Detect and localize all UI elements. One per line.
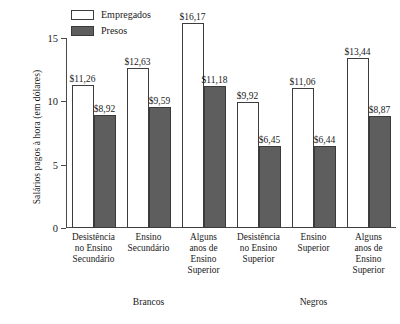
category-label-line: Superior <box>335 265 400 276</box>
bar-value-label: $12,63 <box>124 57 150 67</box>
group-label-negros: Negros <box>264 296 364 307</box>
y-tick-label: 0 <box>53 223 58 234</box>
bar-value-label: $13,44 <box>344 47 370 57</box>
bar-presos-2: $11,18 <box>204 86 226 228</box>
y-axis-title: Salários pagos à hora (em dólares) <box>32 42 42 232</box>
category-label-line: anos de <box>335 243 400 254</box>
bar-empregados-2: $16,17 <box>182 23 204 228</box>
bar-empregados-5: $13,44 <box>347 58 369 228</box>
bar-empregados-3: $9,92 <box>237 102 259 228</box>
bar-presos-4: $6,44 <box>314 146 336 228</box>
y-tick-label: 5 <box>53 159 58 170</box>
bar-value-label: $6,45 <box>259 135 280 145</box>
bar-value-label: $11,18 <box>202 75 228 85</box>
y-tick-label: 10 <box>48 96 59 107</box>
bar-value-label: $16,17 <box>179 12 205 22</box>
bar-presos-3: $6,45 <box>259 146 281 228</box>
bar-presos-1: $9,59 <box>149 107 171 228</box>
legend-label-empregados: Empregados <box>101 9 151 20</box>
category-label-5: Algunsanos deEnsinoSuperior <box>335 232 400 276</box>
bar-presos-0: $8,92 <box>94 115 116 228</box>
legend-item-empregados: Empregados <box>71 8 151 21</box>
category-label-line: Superior <box>170 265 237 276</box>
bar-empregados-4: $11,06 <box>292 88 314 228</box>
bar-series-container: $11,26$12,63$16,17$9,92$11,06$13,44$8,92… <box>66 38 396 228</box>
legend-swatch-presos <box>71 26 94 36</box>
y-tick-0: 0 <box>66 228 67 229</box>
bar-value-label: $11,26 <box>70 74 96 84</box>
chart-root: Salários pagos à hora (em dólares) Empre… <box>0 0 400 324</box>
bar-value-label: $8,87 <box>369 105 390 115</box>
x-axis-category-labels: Desistênciano EnsinoSecundárioEnsinoSecu… <box>66 232 396 290</box>
legend-item-presos: Presos <box>71 24 151 37</box>
bar-value-label: $8,92 <box>94 104 115 114</box>
group-label-brancos: Brancos <box>99 296 199 307</box>
bar-empregados-0: $11,26 <box>72 85 94 228</box>
bar-value-label: $6,44 <box>314 135 335 145</box>
y-tick-mark <box>61 228 66 229</box>
category-label-line: Alguns <box>335 232 400 243</box>
category-label-line: Superior <box>225 254 292 265</box>
bar-value-label: $9,92 <box>237 91 258 101</box>
y-tick-label: 15 <box>48 33 59 44</box>
bar-value-label: $9,59 <box>149 96 170 106</box>
bar-empregados-1: $12,63 <box>127 68 149 228</box>
bar-value-label: $11,06 <box>290 77 316 87</box>
bar-presos-5: $8,87 <box>369 116 391 228</box>
legend-swatch-empregados <box>71 10 94 20</box>
category-label-line: Secundário <box>60 254 127 265</box>
category-label-line: Ensino <box>335 254 400 265</box>
plot-area: 051015 $11,26$12,63$16,17$9,92$11,06$13,… <box>66 38 396 228</box>
legend-label-presos: Presos <box>101 25 127 36</box>
chart-legend: Empregados Presos <box>71 8 151 40</box>
